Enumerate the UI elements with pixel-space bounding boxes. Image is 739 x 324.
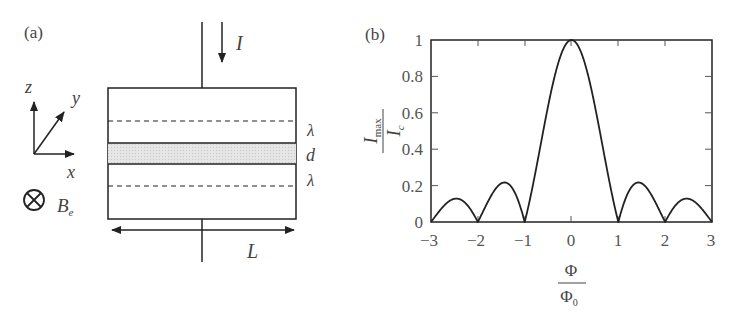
field-label: Be xyxy=(57,195,74,218)
panel-a: (a) I λ d λ L z y x xyxy=(24,22,316,262)
barrier-layer xyxy=(108,143,296,164)
x-tick-labels: −3 −2 −1 0 1 2 3 xyxy=(420,231,715,250)
svg-text:−2: −2 xyxy=(467,231,485,250)
svg-text:Ic: Ic xyxy=(383,125,406,137)
svg-text:−1: −1 xyxy=(514,231,532,250)
critical-current-curve xyxy=(431,40,712,222)
y-axis-label: Imax Ic xyxy=(360,109,406,153)
lambda-top-label: λ xyxy=(306,121,314,140)
svg-text:−3: −3 xyxy=(420,231,438,250)
panel-b: (b) 0 0.2 0.4 0.6 0.8 1 −3 xyxy=(360,25,715,308)
lambda-bottom-label: λ xyxy=(306,171,314,190)
coordinate-axes-icon xyxy=(34,102,74,154)
svg-text:Φ: Φ xyxy=(565,261,577,280)
svg-text:1: 1 xyxy=(415,31,424,50)
svg-text:0.8: 0.8 xyxy=(402,67,423,86)
svg-text:0: 0 xyxy=(567,231,576,250)
svg-text:Φ0: Φ0 xyxy=(560,287,577,308)
svg-text:0.4: 0.4 xyxy=(402,140,424,159)
panel-a-label: (a) xyxy=(24,23,43,42)
y-tick-labels: 0 0.2 0.4 0.6 0.8 1 xyxy=(402,31,424,232)
svg-text:Imax: Imax xyxy=(360,118,383,145)
svg-text:0: 0 xyxy=(415,213,424,232)
svg-text:0.6: 0.6 xyxy=(402,104,423,123)
length-label: L xyxy=(246,240,258,262)
x-axis-label: x xyxy=(66,162,75,182)
plot-frame xyxy=(431,40,712,222)
tick-marks xyxy=(431,40,712,222)
field-into-page-icon xyxy=(24,190,44,210)
d-label: d xyxy=(306,145,316,165)
panel-b-label: (b) xyxy=(365,25,385,44)
svg-text:2: 2 xyxy=(661,231,670,250)
svg-text:1: 1 xyxy=(614,231,623,250)
z-axis-label: z xyxy=(24,77,32,97)
current-label: I xyxy=(235,32,244,54)
figure: (a) I λ d λ L z y x xyxy=(0,0,739,324)
svg-text:3: 3 xyxy=(707,231,716,250)
svg-text:0.2: 0.2 xyxy=(402,177,423,196)
x-axis-label: Φ Φ0 xyxy=(558,261,586,308)
y-axis-label: y xyxy=(70,88,80,108)
